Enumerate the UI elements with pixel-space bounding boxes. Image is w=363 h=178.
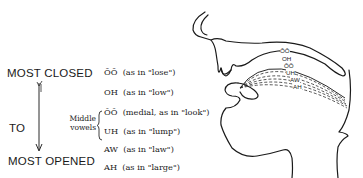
curve-label-ah: AH [293, 83, 302, 90]
mouth-cross-section-diagram [0, 0, 363, 178]
curve-label-oo-short: ŎŎ [284, 62, 294, 69]
curve-label-oo-long: ŌŌ [280, 47, 290, 54]
curve-label-oh: OH [282, 55, 291, 62]
curve-label-aw: AW [290, 76, 300, 83]
curve-label-uh: UH [286, 69, 295, 76]
